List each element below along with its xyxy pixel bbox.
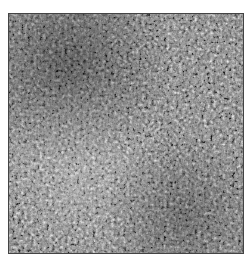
- micrograph-image: [8, 13, 244, 254]
- texture-graphic: [9, 14, 243, 253]
